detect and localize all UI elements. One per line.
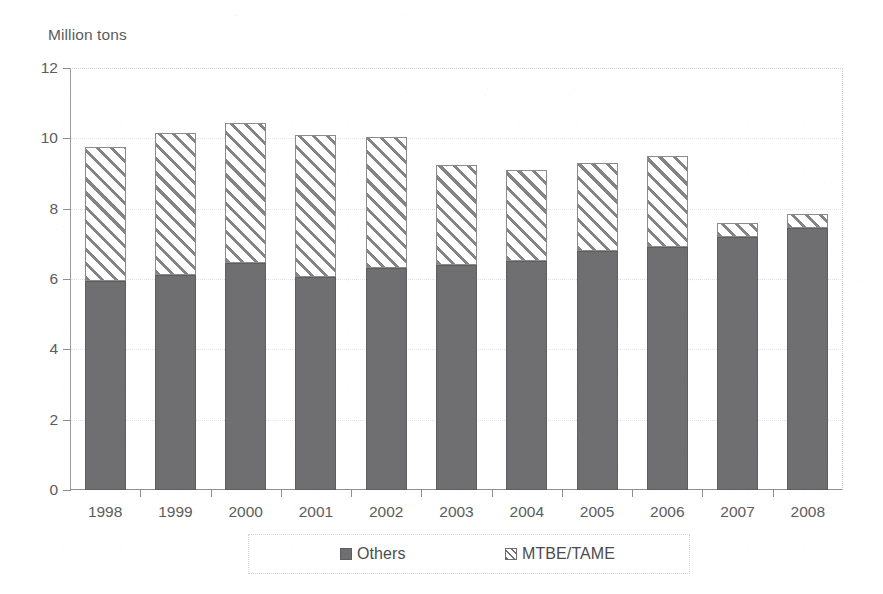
bar-segment-mtbe-tame bbox=[366, 137, 407, 269]
bar-segment-others bbox=[577, 251, 618, 490]
bar-segment-mtbe-tame bbox=[295, 135, 336, 277]
y-tick-mark bbox=[63, 490, 71, 491]
bar-segment-mtbe-tame bbox=[155, 133, 196, 275]
x-tick-label: 2001 bbox=[299, 503, 333, 521]
stacked-bar-chart: Million tons 024681012 19981999200020012… bbox=[0, 0, 883, 594]
legend-item-others: Others bbox=[340, 545, 406, 563]
x-tick-label: 2002 bbox=[369, 503, 403, 521]
plot-area bbox=[70, 68, 843, 490]
solid-square-icon bbox=[340, 548, 352, 560]
x-tick-mark bbox=[421, 490, 422, 497]
bar-segment-mtbe-tame bbox=[787, 214, 828, 228]
y-tick-label: 6 bbox=[18, 270, 58, 288]
bar-segment-others bbox=[717, 237, 758, 490]
x-tick-mark bbox=[562, 490, 563, 497]
y-tick-label: 0 bbox=[18, 481, 58, 499]
bar-segment-others bbox=[506, 261, 547, 490]
y-tick-label: 2 bbox=[18, 411, 58, 429]
bar-stack bbox=[787, 68, 828, 490]
x-tick-mark bbox=[492, 490, 493, 497]
bar-stack bbox=[155, 68, 196, 490]
x-tick-label: 2004 bbox=[510, 503, 544, 521]
x-tick-label: 2006 bbox=[650, 503, 684, 521]
bar-segment-mtbe-tame bbox=[577, 163, 618, 251]
y-tick-label: 4 bbox=[18, 340, 58, 358]
hatched-square-icon bbox=[505, 548, 517, 560]
chart-legend: Others MTBE/TAME bbox=[248, 534, 690, 574]
bar-segment-mtbe-tame bbox=[436, 165, 477, 265]
x-tick-mark bbox=[632, 490, 633, 497]
x-tick-mark bbox=[281, 490, 282, 497]
x-tick-mark bbox=[702, 490, 703, 497]
x-tick-mark bbox=[351, 490, 352, 497]
x-tick-mark bbox=[773, 490, 774, 497]
bar-segment-mtbe-tame bbox=[647, 156, 688, 247]
x-tick-label: 2008 bbox=[791, 503, 825, 521]
bar-segment-others bbox=[295, 277, 336, 490]
bar-segment-others bbox=[647, 247, 688, 490]
legend-label-others: Others bbox=[357, 545, 406, 563]
bar-segment-others bbox=[155, 275, 196, 490]
bar-stack bbox=[85, 68, 126, 490]
bar-stack bbox=[717, 68, 758, 490]
bar-segment-others bbox=[436, 265, 477, 490]
bar-stack bbox=[577, 68, 618, 490]
bar-segment-mtbe-tame bbox=[717, 223, 758, 237]
x-tick-mark bbox=[211, 490, 212, 497]
bar-stack bbox=[225, 68, 266, 490]
bar-segment-others bbox=[225, 263, 266, 490]
bar-stack bbox=[647, 68, 688, 490]
x-tick-label: 1998 bbox=[88, 503, 122, 521]
y-tick-label: 10 bbox=[18, 129, 58, 147]
bar-segment-mtbe-tame bbox=[85, 147, 126, 281]
y-axis-title: Million tons bbox=[48, 26, 127, 44]
x-tick-label: 2000 bbox=[228, 503, 262, 521]
y-tick-label: 12 bbox=[18, 59, 58, 77]
bar-segment-mtbe-tame bbox=[506, 170, 547, 261]
bar-segment-others bbox=[85, 281, 126, 490]
x-tick-mark bbox=[140, 490, 141, 497]
y-tick-label: 8 bbox=[18, 200, 58, 218]
bar-segment-others bbox=[787, 228, 828, 490]
bar-stack bbox=[366, 68, 407, 490]
bar-stack bbox=[506, 68, 547, 490]
legend-label-mtbe-tame: MTBE/TAME bbox=[522, 545, 615, 563]
bar-stack bbox=[295, 68, 336, 490]
x-tick-label: 2007 bbox=[720, 503, 754, 521]
legend-item-mtbe-tame: MTBE/TAME bbox=[505, 545, 615, 563]
x-tick-label: 1999 bbox=[158, 503, 192, 521]
bar-stack bbox=[436, 68, 477, 490]
x-tick-label: 2005 bbox=[580, 503, 614, 521]
bar-segment-mtbe-tame bbox=[225, 123, 266, 264]
bar-segment-others bbox=[366, 268, 407, 490]
x-tick-label: 2003 bbox=[439, 503, 473, 521]
